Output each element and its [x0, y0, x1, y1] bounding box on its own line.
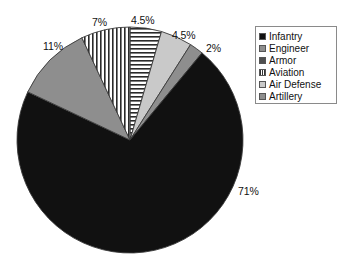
legend-swatch-engineer [259, 45, 266, 52]
legend-swatch-infantry [259, 33, 266, 40]
legend-item-aviation[interactable]: Aviation [259, 66, 336, 78]
legend-swatch-air-defense [259, 81, 266, 88]
legend-item-armor[interactable]: Armor [259, 54, 336, 66]
pie-slice-group [17, 27, 243, 253]
legend-label-artillery: Artillery [269, 91, 302, 102]
slice-label-artillery: 2% [206, 42, 221, 54]
chart-legend: Infantry Engineer Armor Aviation Air Def… [255, 26, 337, 104]
legend-label-armor: Armor [269, 55, 296, 66]
legend-label-air-defense: Air Defense [269, 79, 321, 90]
slice-label-armor: 4.5% [172, 29, 196, 41]
legend-swatch-artillery [259, 93, 266, 100]
slice-label-air-defense: 4.5% [131, 14, 155, 26]
slice-label-aviation: 7% [92, 16, 107, 28]
legend-label-aviation: Aviation [269, 67, 304, 78]
legend-swatch-armor [259, 57, 266, 64]
slice-label-infantry: 71% [238, 185, 259, 197]
legend-item-air-defense[interactable]: Air Defense [259, 78, 336, 90]
legend-swatch-aviation [259, 69, 266, 76]
legend-item-engineer[interactable]: Engineer [259, 42, 336, 54]
legend-label-infantry: Infantry [269, 31, 302, 42]
legend-item-infantry[interactable]: Infantry [259, 30, 336, 42]
legend-label-engineer: Engineer [269, 43, 309, 54]
pie-chart-figure: 7% 4.5% 4.5% 2% 71% 11% Infantry Enginee… [0, 0, 349, 268]
slice-label-engineer: 11% [43, 40, 63, 52]
legend-item-artillery[interactable]: Artillery [259, 90, 336, 102]
